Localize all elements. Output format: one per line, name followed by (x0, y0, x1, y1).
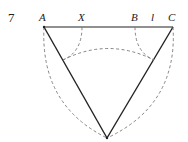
label-a: A (38, 11, 46, 23)
point-bottom (106, 137, 108, 139)
arc-x (63, 27, 82, 60)
label-c: C (168, 11, 176, 23)
arc-b (135, 27, 154, 60)
point-a (43, 26, 45, 28)
side-right (107, 27, 173, 138)
label-b: B (131, 11, 138, 23)
arc-middle (63, 49, 154, 61)
label-l: l (151, 11, 154, 23)
label-x: X (77, 11, 86, 23)
side-left (44, 27, 107, 138)
construction-diagram: 7 A X B l C (0, 0, 188, 142)
figure-number: 7 (8, 10, 15, 25)
